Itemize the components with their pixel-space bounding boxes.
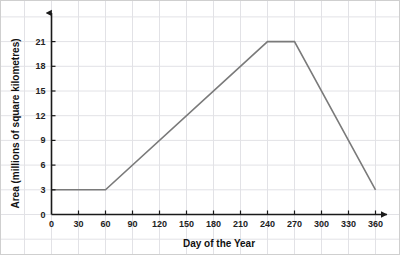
y-tick-label-6: 6 (1, 161, 46, 170)
line-chart: 0306090120150180210240270300330360036912… (0, 0, 400, 255)
x-tick-label-180: 180 (206, 220, 221, 229)
x-tick-label-90: 90 (127, 220, 137, 229)
x-tick-label-360: 360 (368, 220, 383, 229)
x-tick-label-120: 120 (152, 220, 167, 229)
y-tick-label-18: 18 (1, 62, 46, 71)
y-tick-label-21: 21 (1, 37, 46, 46)
x-axis-label: Day of the Year (183, 238, 255, 249)
y-tick-label-3: 3 (1, 185, 46, 194)
x-tick-label-300: 300 (314, 220, 329, 229)
y-tick-label-0: 0 (1, 210, 46, 219)
x-tick-label-30: 30 (73, 220, 83, 229)
x-tick-label-210: 210 (233, 220, 248, 229)
x-tick-label-150: 150 (179, 220, 194, 229)
x-tick-label-60: 60 (100, 220, 110, 229)
y-tick-label-15: 15 (1, 87, 46, 96)
y-tick-label-12: 12 (1, 111, 46, 120)
axes (1, 1, 400, 255)
x-tick-label-330: 330 (341, 220, 356, 229)
y-axis-label: Area (millions of square kilometres) (10, 14, 21, 234)
x-tick-label-0: 0 (49, 220, 54, 229)
x-tick-label-270: 270 (287, 220, 302, 229)
x-tick-label-240: 240 (260, 220, 275, 229)
y-tick-label-9: 9 (1, 136, 46, 145)
